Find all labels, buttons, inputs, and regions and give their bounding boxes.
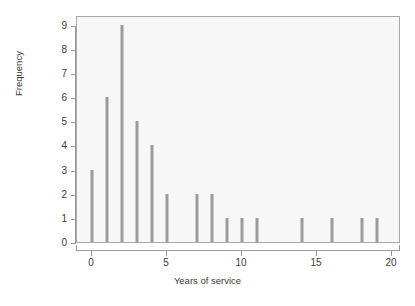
bar — [151, 145, 154, 242]
y-axis-tick-label: 7 — [61, 69, 67, 79]
y-axis-title: Frequency — [14, 51, 24, 96]
y-axis-tick-label: 0 — [61, 238, 67, 248]
y-axis-tick-label: 4 — [61, 141, 67, 151]
bar — [106, 97, 109, 242]
x-axis-tick — [241, 251, 242, 256]
y-axis-tick-label: 3 — [61, 166, 67, 176]
x-axis-tick-label: 5 — [163, 258, 169, 268]
x-axis-line — [76, 250, 400, 251]
y-axis-tick-label: 2 — [61, 190, 67, 200]
clipped-top-text: … — [18, 0, 108, 5]
x-axis-tick — [316, 251, 317, 256]
bar — [121, 25, 124, 242]
y-axis-tick-label: 9 — [61, 21, 67, 31]
y-axis-tick-label: 8 — [61, 45, 67, 55]
bar — [136, 121, 139, 242]
x-axis-tick-label: 20 — [385, 258, 396, 268]
x-axis-tick-label: 15 — [310, 258, 321, 268]
bar — [376, 218, 379, 242]
x-axis-title: Years of service — [0, 275, 415, 286]
plot-panel — [76, 16, 400, 243]
bar — [196, 194, 199, 242]
bar — [256, 218, 259, 242]
bar — [361, 218, 364, 242]
y-axis-tick-label: 5 — [61, 117, 67, 127]
y-axis: 0123456789 — [60, 16, 76, 243]
histogram-figure: … Frequency 0123456789 05101520 Years of… — [0, 0, 415, 306]
x-axis: 05101520 — [76, 243, 400, 263]
y-axis-tick-label: 1 — [61, 214, 67, 224]
bar — [241, 218, 244, 242]
bar — [211, 194, 214, 242]
y-axis-tick-label: 6 — [61, 93, 67, 103]
bar — [166, 194, 169, 242]
x-axis-tick-label: 0 — [88, 258, 94, 268]
x-axis-tick-label: 10 — [235, 258, 246, 268]
bar — [331, 218, 334, 242]
plot-area — [77, 17, 399, 242]
x-axis-tick — [166, 251, 167, 256]
bar — [226, 218, 229, 242]
bar — [91, 170, 94, 242]
bar — [301, 218, 304, 242]
x-axis-tick — [391, 251, 392, 256]
x-axis-tick — [91, 251, 92, 256]
